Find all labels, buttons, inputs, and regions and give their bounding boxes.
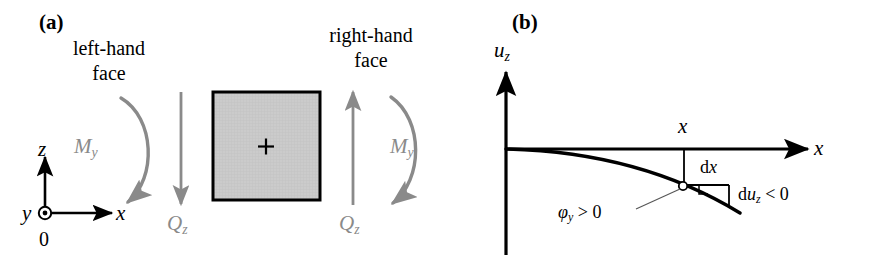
duz-label-prefix: d [738, 184, 747, 204]
rotation-label-symbol: φ [558, 202, 568, 222]
panel-b: (b) uz x x dx duz < 0 φy > 0 [450, 0, 877, 270]
beam-element [213, 92, 320, 200]
station-x-label: x [678, 116, 687, 137]
panel-b-graphics [450, 0, 877, 270]
right-face-label: right-hand face [296, 25, 446, 70]
right-shear-label: Qz [339, 213, 360, 234]
uz-axis-symbol: u [494, 38, 505, 62]
panel-a-tag: (a) [39, 12, 64, 33]
duz-label-symbol: u [747, 184, 756, 204]
right-moment-symbol: M [390, 134, 408, 158]
panel-a: (a) left-hand face right-hand face My My… [0, 0, 450, 270]
left-face-label-line1: left-hand [73, 37, 145, 59]
duz-label: duz < 0 [738, 185, 789, 203]
right-shear-subscript: z [354, 222, 359, 237]
right-moment-subscript: y [408, 145, 414, 160]
left-moment-label: My [74, 136, 98, 157]
right-face-label-line1: right-hand [329, 24, 412, 46]
x-axis-label: x [116, 203, 125, 224]
uz-axis-subscript: z [505, 49, 510, 64]
right-face-label-line2: face [296, 50, 446, 70]
dx-label: dx [700, 158, 717, 176]
right-shear-symbol: Q [339, 211, 354, 235]
right-moment-label: My [390, 136, 414, 157]
origin-label: 0 [39, 229, 49, 249]
x-axis-label-b: x [814, 138, 823, 159]
panel-b-tag: (b) [512, 12, 538, 33]
left-shear-symbol: Q [167, 211, 182, 235]
uz-axis-label: uz [494, 40, 510, 61]
left-moment-subscript: y [92, 145, 98, 160]
left-moment-arc [121, 98, 148, 202]
left-shear-label: Qz [167, 213, 188, 234]
duz-label-relation: < 0 [761, 184, 789, 204]
left-shear-subscript: z [182, 222, 187, 237]
y-axis-label: y [22, 203, 31, 224]
left-moment-arc-path [121, 98, 148, 202]
z-axis-label: z [38, 139, 46, 160]
dx-label-symbol: x [709, 157, 717, 177]
rotation-leader-line [636, 189, 680, 209]
figure-root: (a) left-hand face right-hand face My My… [0, 0, 877, 270]
out-of-page-dot-icon [39, 207, 51, 219]
rotation-label: φy > 0 [558, 203, 601, 221]
open-circle-point-icon [679, 182, 687, 190]
left-moment-symbol: M [74, 134, 92, 158]
left-face-label-line2: face [39, 63, 179, 83]
coordinate-triad [39, 157, 112, 219]
dx-label-prefix: d [700, 157, 709, 177]
left-face-label: left-hand face [39, 38, 179, 83]
rotation-label-relation: > 0 [573, 202, 601, 222]
